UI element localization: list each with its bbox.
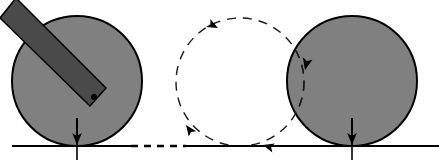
figure-container [0,0,439,164]
rod-pivot-dot [91,94,96,99]
mechanics-diagram-svg [0,0,439,164]
